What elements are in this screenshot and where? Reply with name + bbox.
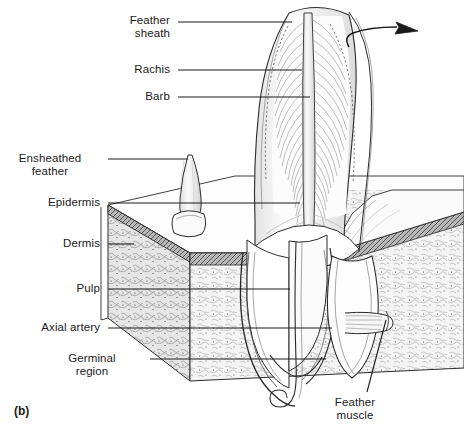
- label-feather-muscle: Feather muscle: [305, 396, 405, 421]
- label-germinal-region: Germinal region: [42, 352, 142, 377]
- rachis-shaft: [303, 13, 315, 247]
- ensheathed-feather-shaft: [180, 155, 202, 215]
- label-dermis: Dermis: [0, 237, 100, 250]
- label-feather-sheath: Feather sheath: [60, 14, 170, 39]
- label-ensheathed-feather: Ensheathed feather: [0, 152, 100, 177]
- label-epidermis: Epidermis: [0, 196, 100, 209]
- ensheathed-feather-collar: [172, 211, 206, 237]
- panel-label: (b): [14, 404, 29, 418]
- growth-arrow-head: [395, 22, 418, 34]
- label-barb: Barb: [60, 90, 170, 103]
- figure-panel: Feather sheath Rachis Barb Ensheathed fe…: [0, 0, 464, 436]
- label-axial-artery: Axial artery: [0, 321, 100, 334]
- label-rachis: Rachis: [60, 63, 170, 76]
- block-left-edge: [101, 207, 108, 320]
- label-pulp: Pulp: [0, 282, 100, 295]
